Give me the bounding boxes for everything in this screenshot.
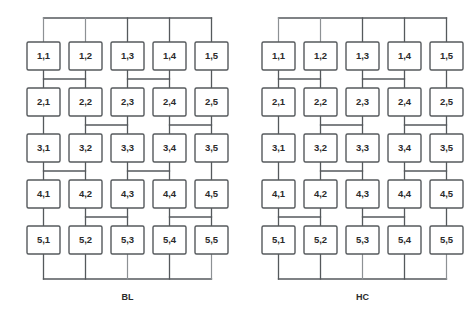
node-label: 1,1	[272, 50, 286, 61]
panels-layer: 1,11,21,31,41,52,12,22,32,42,53,13,23,33…	[27, 18, 463, 302]
node-hc-1-1[interactable]: 1,1	[262, 42, 295, 70]
node-label: 1,1	[37, 50, 51, 61]
node-bl-2-2[interactable]: 2,2	[69, 88, 102, 116]
panel-hc: 1,11,21,31,41,52,12,22,32,42,53,13,23,33…	[262, 18, 463, 302]
node-hc-2-1[interactable]: 2,1	[262, 88, 295, 116]
node-label: 2,1	[37, 96, 51, 107]
node-bl-1-1[interactable]: 1,1	[27, 42, 60, 70]
node-bl-4-2[interactable]: 4,2	[69, 180, 102, 208]
panel-caption-bl: BL	[122, 292, 134, 302]
node-label: 5,4	[163, 234, 177, 245]
node-label: 1,3	[121, 50, 134, 61]
node-label: 1,3	[356, 50, 369, 61]
node-label: 5,5	[440, 234, 454, 245]
node-bl-1-2[interactable]: 1,2	[69, 42, 102, 70]
panel-caption-hc: HC	[356, 292, 369, 302]
node-label: 3,4	[163, 142, 177, 153]
node-bl-3-2[interactable]: 3,2	[69, 134, 102, 162]
node-label: 2,1	[272, 96, 286, 107]
node-hc-3-2[interactable]: 3,2	[304, 134, 337, 162]
node-label: 1,4	[398, 50, 412, 61]
node-label: 1,2	[79, 50, 92, 61]
panel-bl: 1,11,21,31,41,52,12,22,32,42,53,13,23,33…	[27, 18, 228, 302]
figure-canvas: 1,11,21,31,41,52,12,22,32,42,53,13,23,33…	[0, 0, 476, 322]
node-hc-2-2[interactable]: 2,2	[304, 88, 337, 116]
node-label: 3,1	[37, 142, 51, 153]
node-label: 3,1	[272, 142, 286, 153]
node-bl-4-4[interactable]: 4,4	[153, 180, 186, 208]
node-hc-1-5[interactable]: 1,5	[430, 42, 463, 70]
node-label: 1,5	[440, 50, 454, 61]
node-hc-3-1[interactable]: 3,1	[262, 134, 295, 162]
node-bl-5-2[interactable]: 5,2	[69, 226, 102, 254]
node-bl-1-5[interactable]: 1,5	[195, 42, 228, 70]
node-hc-5-5[interactable]: 5,5	[430, 226, 463, 254]
node-label: 2,5	[440, 96, 454, 107]
node-bl-2-5[interactable]: 2,5	[195, 88, 228, 116]
node-hc-2-5[interactable]: 2,5	[430, 88, 463, 116]
node-label: 3,3	[356, 142, 369, 153]
node-bl-3-3[interactable]: 3,3	[111, 134, 144, 162]
node-bl-5-3[interactable]: 5,3	[111, 226, 144, 254]
node-label: 2,3	[121, 96, 134, 107]
node-hc-5-4[interactable]: 5,4	[388, 226, 421, 254]
node-label: 3,5	[205, 142, 219, 153]
node-hc-3-4[interactable]: 3,4	[388, 134, 421, 162]
node-label: 4,5	[205, 188, 219, 199]
node-hc-4-1[interactable]: 4,1	[262, 180, 295, 208]
node-label: 5,5	[205, 234, 219, 245]
node-label: 2,4	[163, 96, 177, 107]
node-label: 3,2	[314, 142, 327, 153]
node-label: 3,5	[440, 142, 454, 153]
node-label: 5,2	[314, 234, 327, 245]
node-hc-5-3[interactable]: 5,3	[346, 226, 379, 254]
node-hc-5-2[interactable]: 5,2	[304, 226, 337, 254]
node-label: 4,3	[121, 188, 134, 199]
node-bl-3-1[interactable]: 3,1	[27, 134, 60, 162]
node-label: 1,4	[163, 50, 177, 61]
node-bl-4-5[interactable]: 4,5	[195, 180, 228, 208]
node-label: 5,4	[398, 234, 412, 245]
node-label: 1,5	[205, 50, 219, 61]
node-bl-2-1[interactable]: 2,1	[27, 88, 60, 116]
node-hc-2-3[interactable]: 2,3	[346, 88, 379, 116]
node-label: 3,2	[79, 142, 92, 153]
node-label: 4,4	[163, 188, 177, 199]
node-label: 5,1	[272, 234, 286, 245]
node-hc-3-3[interactable]: 3,3	[346, 134, 379, 162]
node-bl-3-5[interactable]: 3,5	[195, 134, 228, 162]
node-label: 3,3	[121, 142, 134, 153]
node-bl-3-4[interactable]: 3,4	[153, 134, 186, 162]
node-hc-1-3[interactable]: 1,3	[346, 42, 379, 70]
node-hc-4-3[interactable]: 4,3	[346, 180, 379, 208]
node-label: 2,2	[314, 96, 327, 107]
node-hc-1-2[interactable]: 1,2	[304, 42, 337, 70]
node-label: 3,4	[398, 142, 412, 153]
node-label: 4,4	[398, 188, 412, 199]
node-bl-4-1[interactable]: 4,1	[27, 180, 60, 208]
node-label: 4,1	[37, 188, 51, 199]
node-bl-1-4[interactable]: 1,4	[153, 42, 186, 70]
node-hc-5-1[interactable]: 5,1	[262, 226, 295, 254]
node-hc-3-5[interactable]: 3,5	[430, 134, 463, 162]
node-bl-4-3[interactable]: 4,3	[111, 180, 144, 208]
node-bl-2-4[interactable]: 2,4	[153, 88, 186, 116]
node-bl-2-3[interactable]: 2,3	[111, 88, 144, 116]
node-label: 2,2	[79, 96, 92, 107]
node-bl-5-1[interactable]: 5,1	[27, 226, 60, 254]
network-topology-diagram: 1,11,21,31,41,52,12,22,32,42,53,13,23,33…	[0, 0, 476, 322]
node-label: 4,5	[440, 188, 454, 199]
node-bl-1-3[interactable]: 1,3	[111, 42, 144, 70]
node-bl-5-4[interactable]: 5,4	[153, 226, 186, 254]
node-label: 5,3	[356, 234, 369, 245]
node-label: 4,1	[272, 188, 286, 199]
node-label: 2,5	[205, 96, 219, 107]
node-hc-2-4[interactable]: 2,4	[388, 88, 421, 116]
node-hc-4-5[interactable]: 4,5	[430, 180, 463, 208]
node-label: 5,2	[79, 234, 92, 245]
node-hc-4-2[interactable]: 4,2	[304, 180, 337, 208]
node-bl-5-5[interactable]: 5,5	[195, 226, 228, 254]
node-label: 2,4	[398, 96, 412, 107]
node-hc-4-4[interactable]: 4,4	[388, 180, 421, 208]
node-hc-1-4[interactable]: 1,4	[388, 42, 421, 70]
